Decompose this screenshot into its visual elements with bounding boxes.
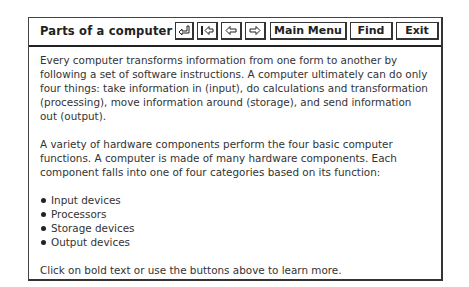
list-item-label: Input devices — [51, 194, 121, 206]
bullet-icon — [41, 226, 46, 231]
list-item[interactable]: Processors — [40, 207, 429, 221]
list-item-label: Processors — [51, 208, 106, 220]
main-menu-button[interactable]: Main Menu — [270, 22, 347, 40]
hypercard-window: Parts of a computer Main Menu Find Exit … — [28, 17, 443, 281]
back-button[interactable] — [221, 22, 242, 40]
return-arrow-icon — [178, 25, 190, 36]
component-list: Input devices Processors Storage devices… — [40, 193, 429, 249]
bullet-icon — [41, 198, 46, 203]
return-button[interactable] — [175, 22, 194, 40]
exit-button[interactable]: Exit — [396, 22, 439, 40]
list-item[interactable]: Output devices — [40, 235, 429, 249]
list-item[interactable]: Input devices — [40, 193, 429, 207]
bullet-icon — [41, 212, 46, 217]
forward-button[interactable] — [245, 22, 266, 40]
list-item-label: Output devices — [51, 236, 130, 248]
left-arrow-icon — [225, 25, 237, 36]
first-card-button[interactable] — [197, 22, 218, 40]
card-content: Every computer transforms information fr… — [40, 53, 429, 287]
hardware-paragraph: A variety of hardware components perform… — [40, 137, 429, 179]
bullet-icon — [41, 240, 46, 245]
list-item[interactable]: Storage devices — [40, 221, 429, 235]
first-page-icon — [200, 25, 214, 36]
right-arrow-icon — [249, 25, 261, 36]
title-bar: Parts of a computer Main Menu Find Exit — [29, 18, 441, 47]
intro-paragraph: Every computer transforms information fr… — [40, 53, 429, 123]
find-button[interactable]: Find — [350, 22, 393, 40]
page-title: Parts of a computer — [40, 24, 172, 38]
footer-instruction: Click on bold text or use the buttons ab… — [40, 263, 429, 277]
list-item-label: Storage devices — [51, 222, 135, 234]
